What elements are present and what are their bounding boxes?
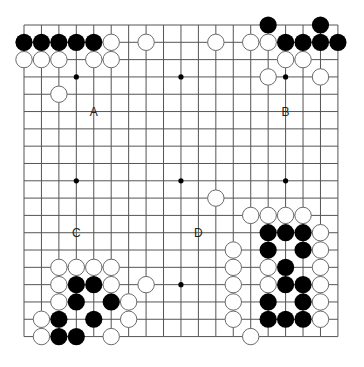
white-stone[interactable] (243, 207, 259, 223)
star-point (283, 74, 288, 79)
star-point (178, 178, 183, 183)
black-stone[interactable] (50, 328, 67, 345)
black-stone[interactable] (68, 34, 85, 51)
black-stone[interactable] (260, 293, 277, 310)
white-stone[interactable] (312, 225, 328, 241)
white-stone[interactable] (120, 311, 136, 327)
black-stone[interactable] (312, 34, 329, 51)
black-stone[interactable] (294, 293, 311, 310)
white-stone[interactable] (103, 328, 119, 344)
black-stone[interactable] (294, 34, 311, 51)
black-stone[interactable] (68, 276, 85, 293)
star-point (74, 178, 79, 183)
black-stone[interactable] (260, 311, 277, 328)
star-point (283, 178, 288, 183)
white-stone[interactable] (86, 51, 102, 67)
white-stone[interactable] (51, 259, 67, 275)
white-stone[interactable] (103, 259, 119, 275)
black-stone[interactable] (50, 34, 67, 51)
label-b: B (282, 105, 290, 119)
white-stone[interactable] (243, 328, 259, 344)
black-stone[interactable] (15, 34, 32, 51)
black-stone[interactable] (294, 276, 311, 293)
white-stone[interactable] (103, 34, 119, 50)
white-stone[interactable] (277, 207, 293, 223)
white-stone[interactable] (103, 276, 119, 292)
white-stone[interactable] (312, 259, 328, 275)
white-stone[interactable] (103, 51, 119, 67)
black-stone[interactable] (85, 276, 102, 293)
white-stone[interactable] (68, 259, 84, 275)
black-stone[interactable] (260, 224, 277, 241)
star-point (178, 74, 183, 79)
label-a: A (90, 105, 98, 119)
white-stone[interactable] (120, 294, 136, 310)
black-stone[interactable] (329, 34, 346, 51)
star-point (74, 74, 79, 79)
white-stone[interactable] (295, 51, 311, 67)
black-stone[interactable] (277, 276, 294, 293)
black-stone[interactable] (68, 328, 85, 345)
black-stone[interactable] (33, 34, 50, 51)
black-stone[interactable] (68, 293, 85, 310)
white-stone[interactable] (208, 34, 224, 50)
white-stone[interactable] (277, 51, 293, 67)
white-stone[interactable] (225, 311, 241, 327)
go-board: ABCD (0, 0, 364, 367)
white-stone[interactable] (51, 51, 67, 67)
black-stone[interactable] (85, 34, 102, 51)
white-stone[interactable] (86, 259, 102, 275)
black-stone[interactable] (260, 241, 277, 258)
white-stone[interactable] (260, 259, 276, 275)
white-stone[interactable] (33, 328, 49, 344)
white-stone[interactable] (260, 207, 276, 223)
white-stone[interactable] (260, 34, 276, 50)
white-stone[interactable] (225, 259, 241, 275)
white-stone[interactable] (16, 51, 32, 67)
white-stone[interactable] (225, 276, 241, 292)
label-d: D (194, 226, 203, 240)
black-stone[interactable] (312, 16, 329, 33)
white-stone[interactable] (51, 276, 67, 292)
white-stone[interactable] (260, 69, 276, 85)
white-stone[interactable] (138, 34, 154, 50)
white-stone[interactable] (312, 69, 328, 85)
black-stone[interactable] (85, 311, 102, 328)
white-stone[interactable] (312, 276, 328, 292)
white-stone[interactable] (51, 86, 67, 102)
white-stone[interactable] (51, 294, 67, 310)
black-stone[interactable] (277, 259, 294, 276)
white-stone[interactable] (243, 34, 259, 50)
white-stone[interactable] (33, 311, 49, 327)
black-stone[interactable] (277, 224, 294, 241)
white-stone[interactable] (225, 294, 241, 310)
white-stone[interactable] (225, 242, 241, 258)
white-stone[interactable] (260, 276, 276, 292)
white-stone[interactable] (208, 190, 224, 206)
black-stone[interactable] (294, 224, 311, 241)
star-point (178, 282, 183, 287)
black-stone[interactable] (50, 311, 67, 328)
white-stone[interactable] (295, 207, 311, 223)
white-stone[interactable] (312, 311, 328, 327)
black-stone[interactable] (294, 241, 311, 258)
black-stone[interactable] (103, 293, 120, 310)
black-stone[interactable] (277, 34, 294, 51)
white-stone[interactable] (33, 51, 49, 67)
label-c: C (72, 226, 81, 240)
black-stone[interactable] (277, 311, 294, 328)
white-stone[interactable] (312, 242, 328, 258)
black-stone[interactable] (294, 311, 311, 328)
white-stone[interactable] (312, 294, 328, 310)
white-stone[interactable] (138, 276, 154, 292)
black-stone[interactable] (260, 16, 277, 33)
